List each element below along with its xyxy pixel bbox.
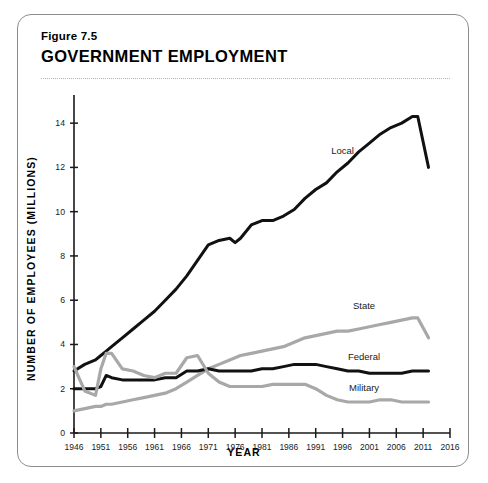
figure-card: Figure 7.5 GOVERNMENT EMPLOYMENT NUMBER … [17, 14, 469, 467]
x-tick-label: 2006 [387, 442, 406, 452]
series-line-state [74, 318, 429, 411]
figure-header: Figure 7.5 GOVERNMENT EMPLOYMENT [41, 29, 450, 67]
x-tick-label: 1986 [279, 442, 298, 452]
x-tick-label: 2001 [360, 442, 379, 452]
x-tick-label: 1991 [306, 442, 325, 452]
figure-number: Figure 7.5 [41, 29, 450, 44]
y-axis-title-text: NUMBER OF EMPLOYEES (MILLIONS) [25, 156, 37, 381]
series-label-local: Local [331, 145, 354, 156]
x-tick-label: 1961 [145, 442, 164, 452]
x-tick-label: 1951 [91, 442, 110, 452]
x-tick-label: 1971 [199, 442, 218, 452]
series-label-state: State [353, 300, 375, 311]
y-tick-label: 12 [55, 162, 65, 172]
chart-plot-area: NUMBER OF EMPLOYEES (MILLIONS) YEAR 0246… [18, 81, 470, 466]
y-tick-label: 14 [55, 118, 65, 128]
chart-series-group [74, 116, 429, 410]
x-tick-label: 2016 [441, 442, 460, 452]
header-divider [41, 78, 450, 79]
series-label-military: Military [349, 382, 379, 393]
x-tick-label: 1966 [172, 442, 191, 452]
series-line-local [74, 116, 429, 371]
chart-series-labels: LocalStateFederalMilitary [331, 145, 380, 393]
x-tick-label: 1981 [253, 442, 272, 452]
y-tick-label: 4 [60, 339, 65, 349]
x-tick-label: 1976 [226, 442, 245, 452]
figure-title: GOVERNMENT EMPLOYMENT [41, 46, 450, 67]
x-tick-label: 1956 [118, 442, 137, 452]
x-tick-label: 2011 [414, 442, 433, 452]
y-tick-label: 10 [55, 207, 65, 217]
y-tick-label: 6 [60, 295, 65, 305]
x-tick-label: 1996 [333, 442, 352, 452]
y-tick-label: 8 [60, 251, 65, 261]
x-tick-label: 1946 [65, 442, 84, 452]
chart-axes [74, 95, 450, 433]
y-tick-label: 2 [60, 384, 65, 394]
series-label-federal: Federal [348, 351, 380, 362]
y-tick-label: 0 [60, 428, 65, 438]
y-axis-title: NUMBER OF EMPLOYEES (MILLIONS) [25, 156, 37, 381]
government-employment-line-chart: NUMBER OF EMPLOYEES (MILLIONS) YEAR 0246… [18, 81, 470, 466]
x-axis-ticks: 1946195119561961196619711976198119861991… [65, 428, 460, 452]
